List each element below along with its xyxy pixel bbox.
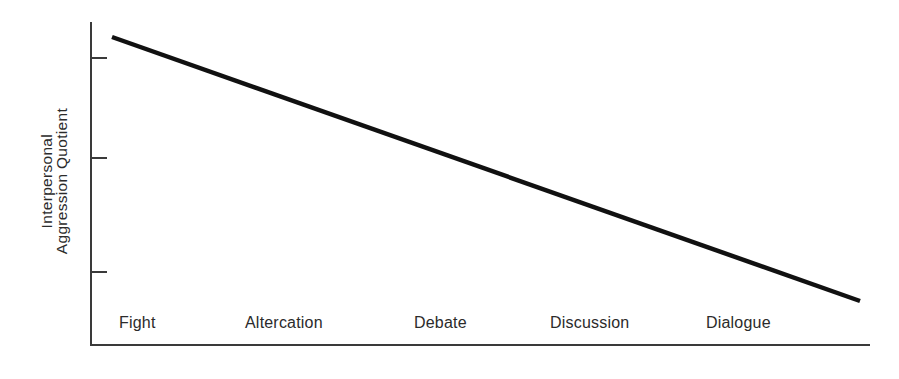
x-tick-label-debate: Debate [414,314,467,332]
x-tick-label-dialogue: Dialogue [706,314,771,332]
x-tick-label-fight: Fight [119,314,156,332]
x-tick-label-altercation: Altercation [245,314,323,332]
y-axis-label-line-2: Aggression Quotient [54,108,70,254]
x-axis-tick-labels: Fight Altercation Debate Discussion Dial… [90,314,870,338]
y-axis-label-line-1: Interpersonal [39,134,55,228]
chart-figure: Interpersonal Aggression Quotient Fight … [0,0,899,379]
y-axis-label: Interpersonal Aggression Quotient [26,46,82,316]
x-tick-label-discussion: Discussion [550,314,629,332]
